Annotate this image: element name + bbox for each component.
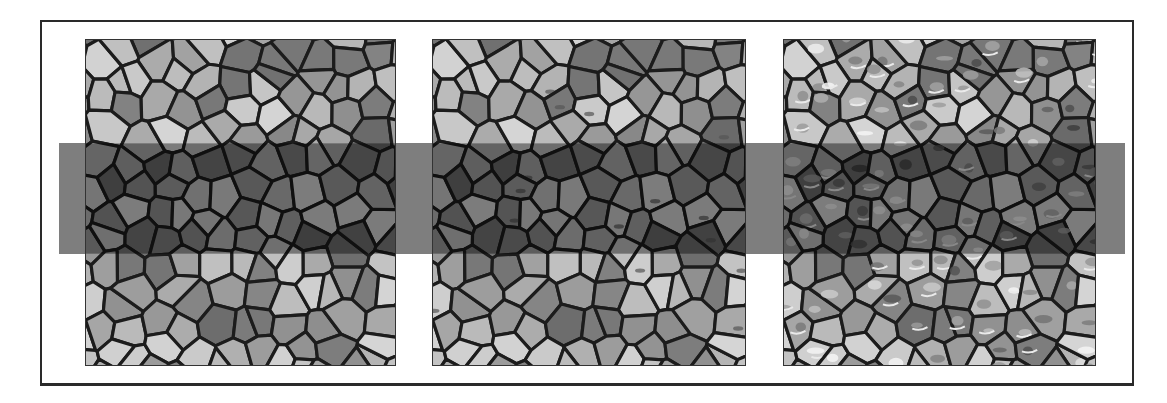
voronoi-panel-1 bbox=[85, 39, 396, 366]
voronoi-panel-2 bbox=[432, 39, 746, 366]
voronoi-panel-3 bbox=[783, 39, 1096, 366]
